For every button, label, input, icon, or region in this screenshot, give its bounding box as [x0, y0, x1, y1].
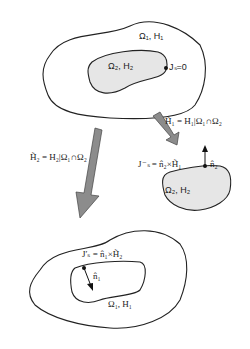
- diagram-canvas: [0, 0, 250, 349]
- boundary-label: Jₛ=0: [169, 63, 187, 72]
- normal-arrow-2-head: [202, 145, 208, 152]
- boundary-point: [164, 66, 168, 70]
- bottom-outer-region: [30, 231, 187, 328]
- normal-label-2: n̂₂: [210, 160, 218, 169]
- right-region-label: Ω₂, H₂: [165, 186, 190, 195]
- normal-arrow-1-head: [87, 283, 93, 291]
- equation-js-bottom: J′ₛ = n̂₁×H̃₂: [82, 250, 122, 259]
- equation-h2: H̃₂ = H₂|Ω₁∩Ω₂: [30, 153, 87, 162]
- bottom-inner-region: [71, 261, 146, 302]
- top-outer-label: Ω₁, H₁: [139, 32, 163, 41]
- left-arrow: [76, 128, 102, 218]
- top-inner-region: [88, 50, 167, 93]
- bottom-region-label: Ω₁, H₁: [108, 300, 132, 309]
- equation-h1: H̃₁ = H₁|Ω₁∩Ω₂: [165, 117, 222, 126]
- top-inner-label: Ω₂, H₂: [108, 62, 133, 71]
- normal-arrow-1: [84, 268, 91, 286]
- normal-label-1: n̂₁: [93, 272, 101, 281]
- equation-js-right: J⁻ₛ = n̂₂×H̃₁: [138, 160, 181, 169]
